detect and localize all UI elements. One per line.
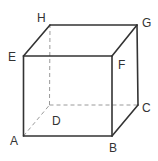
cube-diagram: H G E F C D A B xyxy=(0,0,158,161)
label-vertex-f: F xyxy=(118,58,125,72)
edge-BC xyxy=(112,105,138,136)
label-vertex-h: H xyxy=(37,11,46,25)
label-vertex-e: E xyxy=(8,50,16,64)
edge-EH xyxy=(24,25,51,56)
vertex-labels: H G E F C D A B xyxy=(8,11,151,155)
hidden-edges xyxy=(24,25,139,136)
label-vertex-d: D xyxy=(52,114,61,128)
edge-GF xyxy=(112,25,137,56)
edge-DH xyxy=(50,25,51,105)
visible-edges xyxy=(24,25,139,136)
edge-AD xyxy=(24,105,50,136)
label-vertex-g: G xyxy=(142,16,151,30)
label-vertex-a: A xyxy=(10,134,18,148)
label-vertex-c: C xyxy=(142,101,151,115)
label-vertex-b: B xyxy=(109,141,117,155)
edge-CG xyxy=(137,25,138,105)
